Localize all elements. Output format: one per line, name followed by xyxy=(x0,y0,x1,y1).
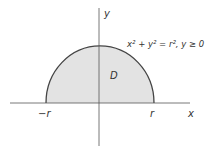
tick-neg-r: −r xyxy=(38,108,51,119)
x-axis-label: x xyxy=(187,108,194,119)
y-axis-label: y xyxy=(103,8,111,19)
equation-label: x² + y² = r², y ≥ 0 xyxy=(126,39,204,49)
semicircle-region xyxy=(46,46,154,103)
semicircle-diagram: y x −r r D x² + y² = r², y ≥ 0 xyxy=(0,0,213,152)
tick-pos-r: r xyxy=(150,108,155,119)
region-label: D xyxy=(110,70,118,81)
